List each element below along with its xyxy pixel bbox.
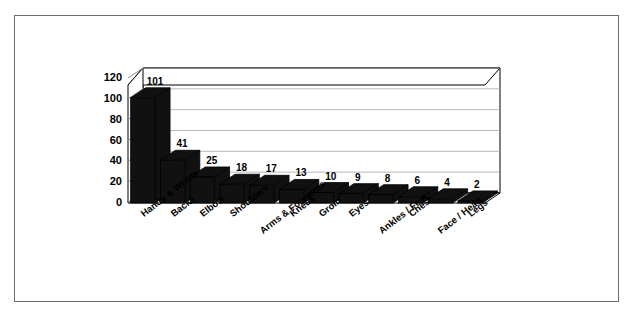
plot-top-face xyxy=(128,68,500,85)
chart-figure: 020406080100120 10141251817131098642 Han… xyxy=(0,0,634,324)
y-axis-tick-label: 0 xyxy=(92,197,122,208)
y-axis-tick-label: 80 xyxy=(92,114,122,125)
bar-value-label: 4 xyxy=(444,178,450,188)
bar-value-label: 10 xyxy=(325,172,336,182)
y-axis-tick-label: 40 xyxy=(92,155,122,166)
bar-value-label: 17 xyxy=(266,164,277,174)
bar-value-label: 25 xyxy=(206,156,217,166)
bar xyxy=(369,195,393,203)
y-axis-tick-label: 60 xyxy=(92,135,122,146)
bar-value-label: 18 xyxy=(236,163,247,173)
bar-value-label: 8 xyxy=(385,174,391,184)
bar-value-label: 101 xyxy=(147,77,164,87)
y-axis-tick-label: 100 xyxy=(92,93,122,104)
y-axis-tick-label: 20 xyxy=(92,176,122,187)
bar-value-label: 2 xyxy=(474,180,480,190)
bar xyxy=(131,98,155,203)
y-axis-tick-label: 120 xyxy=(92,72,122,83)
bar-value-label: 41 xyxy=(176,139,187,149)
bar-value-label: 9 xyxy=(355,173,361,183)
bar-value-label: 6 xyxy=(414,176,420,186)
bar-value-label: 13 xyxy=(295,168,306,178)
